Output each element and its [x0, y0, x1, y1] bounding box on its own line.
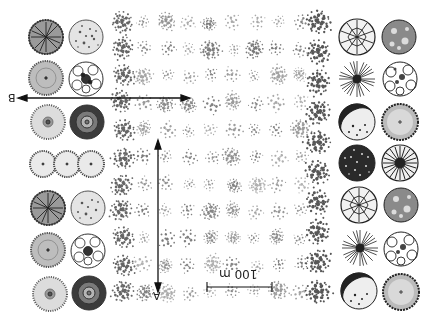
edge-shrub [301, 5, 335, 38]
segmented-radial-canopy-icon [341, 187, 377, 223]
lobed-outline-canopy-icon [384, 232, 418, 266]
stippled-canopy-icon [71, 191, 105, 225]
plantation-tree [157, 228, 178, 250]
plantation-tree [161, 69, 175, 82]
plantation-tree [134, 202, 151, 218]
plantation-tree [247, 232, 260, 244]
plantation-tree [283, 112, 317, 146]
plantation-tree [268, 201, 290, 223]
plantation-tree [159, 39, 178, 57]
plantation-tree [138, 231, 151, 245]
plantation-tree [101, 190, 141, 230]
dense-ring-canopy-icon [72, 276, 106, 310]
right-symbol-legend [332, 19, 419, 310]
plantation-tree [216, 85, 249, 118]
plantation-tree [261, 274, 294, 307]
plantation-tree [266, 174, 287, 196]
plantation-tree [183, 178, 196, 190]
scalloped-ring-canopy-icon [383, 274, 419, 310]
plantation-tree [181, 69, 200, 87]
plantation-tree [271, 256, 287, 273]
scalloped-ring-canopy-icon [382, 104, 418, 140]
mottled-canopy-icon [384, 188, 418, 222]
plantation-tree [177, 226, 198, 248]
plantation-tree [221, 65, 242, 85]
lobed-outline-canopy-icon [383, 62, 417, 96]
plantation-tree [293, 233, 306, 245]
dense-radial-canopy-icon [29, 20, 63, 54]
edge-shrub [298, 212, 337, 252]
plantation-tree [106, 220, 141, 254]
plantation-tree [293, 149, 309, 165]
plantation-tree [197, 12, 222, 37]
plantation-tree [204, 149, 221, 166]
dense-ring-canopy-icon [70, 105, 104, 139]
plantation-tree [135, 14, 152, 31]
plantation-tree [133, 118, 154, 140]
plantation-tree [157, 148, 174, 164]
plantation-tree [179, 15, 196, 30]
plantation-tree [261, 58, 296, 93]
plantation-tree [135, 175, 154, 195]
plantation-tree [193, 194, 228, 229]
plantation-tree [157, 119, 179, 141]
plantation-tree [245, 203, 265, 222]
plantation-tree [182, 42, 195, 56]
crescent-shade-canopy-icon [332, 97, 375, 140]
plantation-tree [290, 41, 310, 61]
plantation-tree [107, 58, 141, 91]
plantation-tree [180, 124, 196, 140]
mottled-canopy-icon [382, 20, 416, 54]
plantation-tree [103, 138, 144, 179]
plantation-tree [135, 38, 153, 57]
plantation-tree [224, 176, 244, 196]
plantation-tree [249, 70, 260, 82]
edge-tree-column [294, 5, 342, 314]
plantation-tree [157, 174, 174, 192]
plantation-tree [247, 12, 266, 32]
plantation-tree [101, 1, 143, 43]
plantation-tree [264, 90, 288, 114]
plantation-tree [266, 39, 285, 58]
plantation-tree [269, 122, 283, 137]
starburst-canopy-icon [342, 230, 378, 266]
edge-shrub [296, 239, 341, 285]
plantation-tree [247, 94, 267, 114]
hedge-triple-canopy-icon [30, 151, 104, 177]
plantation-tree [132, 145, 154, 166]
section-label-a: A [153, 290, 161, 301]
plantation-tree [201, 283, 218, 301]
plantation-tree [200, 92, 224, 117]
plantation-tree [222, 118, 246, 141]
plantation-tree [134, 93, 154, 112]
plantation-tree [293, 174, 312, 194]
lobed-cloud-canopy-icon [71, 234, 105, 268]
plantation-tree [199, 225, 223, 250]
ring-dot-canopy-icon [31, 105, 65, 139]
plantation-tree [178, 201, 196, 219]
plantation-tree [247, 148, 264, 165]
edge-shrub [294, 119, 341, 165]
dense-radial-canopy-icon [31, 191, 65, 225]
plantation-tree [178, 256, 196, 275]
plantation-tree [202, 177, 216, 192]
plantation-tree [223, 12, 240, 31]
dark-stippled-canopy-icon [339, 145, 375, 181]
plantation-tree [218, 195, 247, 224]
left-symbol-legend [29, 20, 106, 311]
scale-label: 100 m [219, 268, 257, 280]
plantation-tree [100, 80, 142, 122]
plantation-tree [294, 203, 308, 215]
plantation-tree [202, 122, 218, 137]
stippled-radial-canopy-icon [31, 233, 65, 267]
plantation-tree [241, 35, 268, 63]
stippled-radial-canopy-icon [29, 61, 63, 95]
striped-radial-canopy-icon [382, 145, 418, 181]
plantation-tree [293, 254, 311, 272]
plantation-tree [203, 66, 218, 82]
plantation-tree [108, 250, 139, 280]
plantation-tree [291, 11, 312, 32]
scale-bar [207, 282, 272, 292]
plantation-tree [106, 30, 140, 65]
plantation-tree [149, 89, 181, 121]
